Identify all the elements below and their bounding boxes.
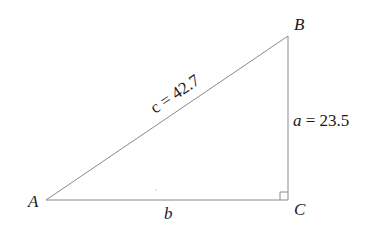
side-c-hypotenuse (46, 36, 288, 200)
stray-dot (155, 189, 156, 190)
vertex-label-c: C (294, 200, 306, 219)
vertex-label-a: A (27, 192, 39, 211)
side-label-a-var: a (293, 111, 302, 130)
side-label-c: c = 42.7 (147, 70, 204, 117)
vertex-label-b: B (294, 15, 305, 34)
triangle-diagram: A B C c = 42.7 a = 23.5 b (0, 0, 380, 234)
triangle-edges (46, 36, 288, 200)
right-angle-marker (280, 192, 288, 200)
side-label-b: b (164, 204, 173, 223)
side-label-a: a = 23.5 (293, 111, 349, 130)
side-label-a-value: = 23.5 (302, 111, 350, 130)
